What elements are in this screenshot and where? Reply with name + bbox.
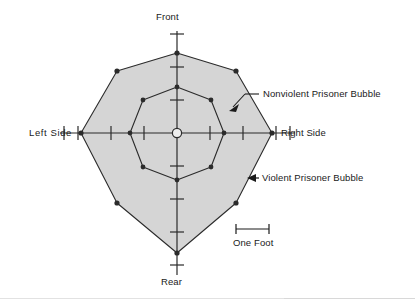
annotation-nonviolent-prisoner-bubble: Nonviolent Prisoner Bubble [263, 89, 381, 99]
vertex-marker [233, 68, 238, 73]
vertex-marker [141, 98, 146, 103]
vertex-marker [174, 250, 179, 255]
vertex-marker [174, 50, 179, 55]
vertex-marker [209, 98, 214, 103]
vertex-marker [269, 130, 274, 135]
vertex-marker [141, 165, 146, 170]
vertex-marker [128, 131, 133, 136]
vertex-marker [222, 131, 227, 136]
annotation-violent-prisoner-bubble: Violent Prisoner Bubble [262, 173, 363, 183]
scale-bar-label: One Foot [233, 238, 273, 248]
axis-label-right-side: Right Side [281, 128, 326, 138]
axis-label-left-side: Left Side [29, 128, 72, 138]
vertex-marker [233, 200, 238, 205]
center-origin-marker [172, 128, 181, 137]
vertex-marker [175, 85, 180, 90]
vertex-marker [114, 68, 119, 73]
vertex-marker [209, 165, 214, 170]
radial-bubble-diagram: Front Rear Left Side Right Side Nonviole… [0, 0, 415, 299]
scale-bar [236, 224, 269, 234]
axis-label-front: Front [156, 12, 179, 22]
vertex-marker [175, 178, 180, 183]
vertex-marker [78, 130, 83, 135]
vertex-marker [114, 200, 119, 205]
axis-label-rear: Rear [161, 277, 182, 287]
diagram-canvas [0, 0, 415, 299]
